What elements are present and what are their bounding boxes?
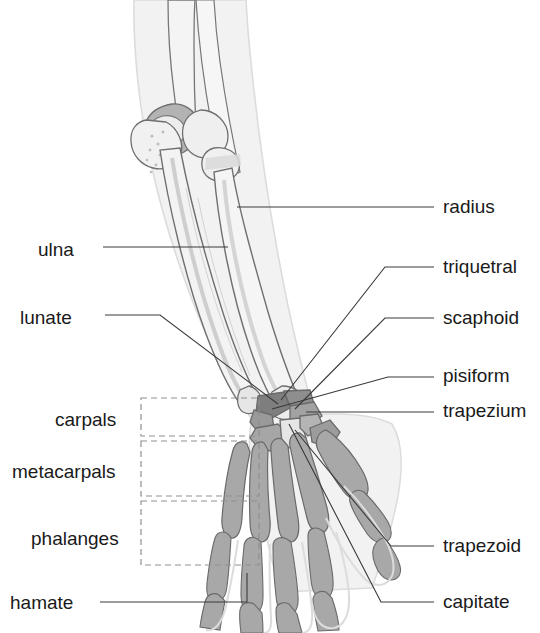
label-trapezium: trapezium: [443, 401, 526, 420]
label-phalanges: phalanges: [31, 529, 119, 548]
metacarpal-4: [250, 442, 271, 542]
label-hamate: hamate: [10, 593, 73, 612]
anatomy-figure-page: ulna lunate carpals metacarpals phalange…: [0, 0, 540, 633]
label-radius: radius: [443, 197, 495, 216]
scaphoid-leader: [295, 318, 434, 409]
index-middle-phalanx: [313, 591, 339, 631]
label-metacarpals: metacarpals: [12, 462, 116, 481]
label-scaphoid: scaphoid: [443, 308, 519, 327]
label-lunate: lunate: [20, 308, 72, 327]
label-carpals: carpals: [55, 410, 116, 429]
label-triquetral: triquetral: [443, 257, 517, 276]
label-pisiform: pisiform: [443, 366, 510, 385]
middle-middle-phalanx: [276, 603, 302, 633]
metacarpal-5: [222, 442, 250, 538]
label-ulna: ulna: [38, 240, 74, 259]
label-trapezoid: trapezoid: [443, 536, 521, 555]
label-capitate: capitate: [443, 592, 510, 611]
little-proximal-phalanx: [207, 532, 231, 602]
little-middle-phalanx: [200, 594, 225, 630]
